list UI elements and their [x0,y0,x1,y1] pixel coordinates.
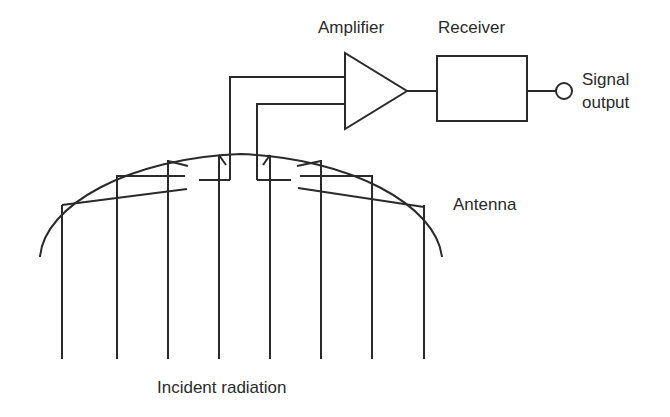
antenna-label: Antenna [453,194,516,215]
incident-radiation-label: Incident radiation [157,377,286,398]
reflected-rays-left [62,155,230,205]
amplifier-label: Amplifier [318,17,384,38]
antenna-dish [40,154,442,257]
feed-wire-outer [230,77,345,180]
radio-telescope-diagram [0,0,670,417]
signal-output-label-line2: output [582,92,629,113]
receiver-label: Receiver [438,17,505,38]
receiver-box [437,56,527,121]
signal-output-label-line1: Signal [582,69,629,90]
signal-output-terminal-icon [556,83,572,99]
amplifier-symbol [345,53,407,129]
incident-rays [62,155,424,359]
